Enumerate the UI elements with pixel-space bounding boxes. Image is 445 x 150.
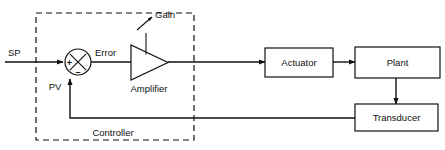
error-label: Error — [95, 47, 116, 58]
controller-label: Controller — [92, 127, 133, 138]
amplifier-symbol — [131, 45, 168, 80]
block-diagram-canvas: + – SP Error Gain Amplifier Actuator Pla… — [0, 0, 445, 150]
amplifier-label: Amplifier — [131, 83, 168, 94]
controller-boundary — [36, 13, 194, 140]
gain-label: Gain — [155, 9, 175, 20]
transducer-label: Transducer — [373, 112, 421, 123]
plant-label: Plant — [387, 57, 409, 68]
summing-junction-minus-sign: – — [75, 67, 80, 77]
actuator-label: Actuator — [281, 57, 316, 68]
summing-junction-plus-sign: + — [67, 58, 72, 68]
summing-junction: + – — [65, 49, 91, 77]
process-variable-label: PV — [49, 81, 62, 92]
setpoint-label: SP — [8, 47, 21, 58]
gain-pointer-arrow — [137, 17, 152, 30]
feedback-wire — [70, 79, 355, 118]
control-system-diagram: + – SP Error Gain Amplifier Actuator Pla… — [0, 0, 445, 150]
